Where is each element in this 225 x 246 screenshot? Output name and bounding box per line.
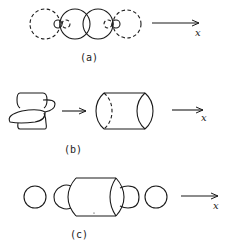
dashed-outer-circle-left bbox=[30, 9, 60, 39]
lobed-shape bbox=[9, 93, 55, 129]
solid-circle-right bbox=[83, 9, 113, 39]
panel-label-c: (c) bbox=[70, 229, 88, 240]
small-lobe-left-dashed bbox=[62, 20, 70, 28]
outer-circle-right bbox=[145, 186, 167, 208]
panel-c: x (c) bbox=[24, 178, 219, 240]
diagram-canvas: x (a) x (b) bbox=[0, 0, 225, 246]
solid-circle-left bbox=[60, 9, 90, 39]
panel-b: x (b) bbox=[9, 93, 207, 155]
axis-label-x-c: x bbox=[213, 200, 219, 211]
small-lobe-right-dashed bbox=[104, 20, 112, 28]
panel-label-a: (a) bbox=[80, 52, 98, 63]
cylinder bbox=[96, 93, 153, 129]
axis-label-x-a: x bbox=[195, 27, 201, 38]
dashed-outer-circle-right bbox=[113, 10, 141, 38]
panel-a: x (a) bbox=[30, 9, 201, 63]
outer-circle-left bbox=[24, 186, 46, 208]
panel-label-b: (b) bbox=[64, 144, 82, 155]
cylinder-c bbox=[68, 178, 124, 216]
axis-label-x-b: x bbox=[201, 112, 207, 123]
